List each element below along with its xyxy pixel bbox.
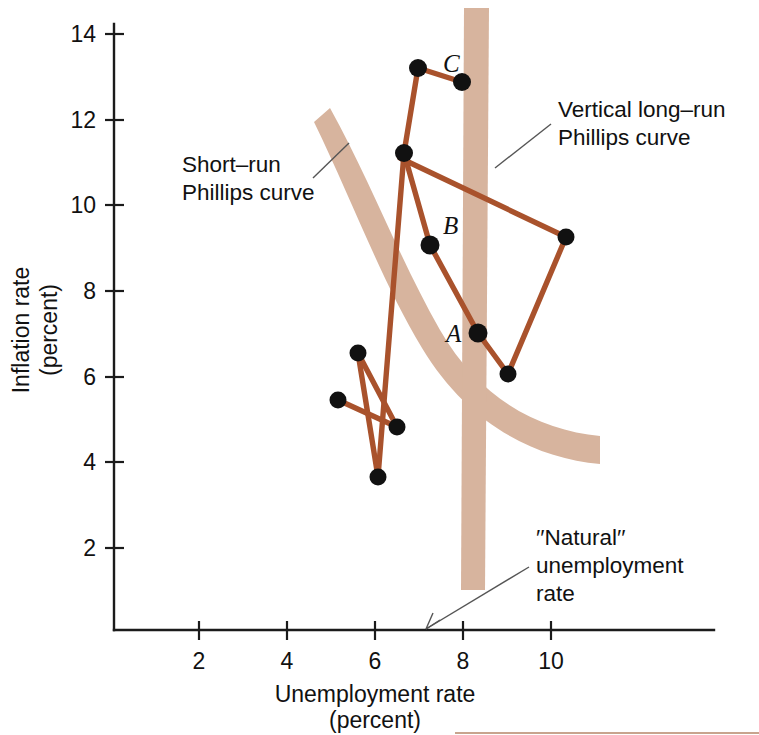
y-tick-label-14: 14: [70, 21, 96, 47]
y-tick-label-4: 4: [83, 449, 96, 475]
data-point[interactable]: [330, 392, 347, 409]
y-axis-subtitle: (percent): [36, 284, 62, 376]
x-tick-label-4: 4: [281, 648, 294, 674]
data-point-b[interactable]: [421, 236, 440, 255]
data-point[interactable]: [389, 419, 406, 436]
data-point[interactable]: [350, 345, 367, 362]
y-axis-title: Inflation rate: [8, 267, 34, 394]
long-run-label-line1: Vertical long–run: [558, 97, 726, 122]
x-axis-title: Unemployment rate: [275, 681, 476, 707]
x-axis-subtitle: (percent): [329, 707, 421, 733]
natural-rate-label-line1: ′′Natural′′: [536, 525, 625, 550]
path-segment: [404, 68, 418, 153]
short-run-label-line1: Short–run: [182, 152, 281, 177]
data-point[interactable]: [409, 59, 427, 77]
point-label-b: B: [443, 212, 458, 239]
y-tick-label-8: 8: [83, 278, 96, 304]
chart-canvas: 14 12 10 8 6 4 2 2 4 6 8 10 Unemployment…: [0, 0, 759, 735]
short-run-label-line2: Phillips curve: [182, 180, 315, 205]
point-label-c: C: [443, 50, 460, 77]
data-point-a[interactable]: [469, 324, 488, 343]
long-run-leader-line: [495, 124, 551, 168]
data-point[interactable]: [395, 144, 413, 162]
natural-rate-arrowhead: [426, 613, 440, 629]
y-tick-label-6: 6: [83, 364, 96, 390]
long-run-label-line2: Phillips curve: [558, 125, 691, 150]
data-point[interactable]: [500, 366, 517, 383]
y-tick-label-2: 2: [83, 535, 96, 561]
data-path-group: [338, 68, 566, 477]
x-tick-label-2: 2: [193, 648, 206, 674]
path-segment: [508, 237, 566, 374]
data-point[interactable]: [370, 469, 387, 486]
vertical-long-run-phillips-curve-band: [461, 8, 489, 590]
x-tick-label-10: 10: [538, 648, 564, 674]
phillips-curve-figure: 14 12 10 8 6 4 2 2 4 6 8 10 Unemployment…: [0, 0, 759, 735]
natural-rate-label-line2: unemployment: [536, 553, 684, 578]
x-tick-label-6: 6: [369, 648, 382, 674]
point-label-a: A: [444, 320, 462, 347]
y-tick-label-10: 10: [70, 192, 96, 218]
x-tick-label-8: 8: [457, 648, 470, 674]
natural-rate-label-line3: rate: [536, 581, 575, 606]
data-point[interactable]: [558, 229, 575, 246]
y-tick-label-12: 12: [70, 107, 96, 133]
